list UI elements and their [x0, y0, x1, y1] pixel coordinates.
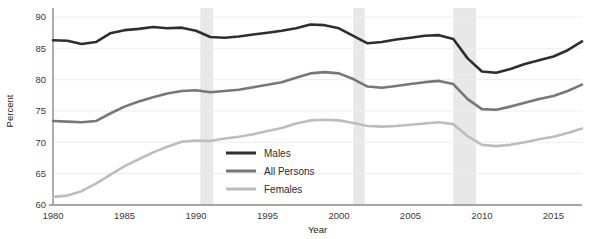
x-tick-label: 1980: [42, 210, 63, 221]
legend-label: Females: [264, 184, 302, 195]
y-tick-label: 75: [35, 105, 46, 116]
series-line-females: [53, 120, 582, 197]
recession-band: [453, 8, 476, 205]
y-tick-label: 80: [35, 74, 46, 85]
y-axis-label: Percent: [4, 94, 15, 127]
x-tick-label: 2015: [543, 210, 564, 221]
chart-canvas: 60657075808590 1980198519901995200020052…: [0, 0, 596, 239]
recession-bands: [200, 8, 476, 205]
y-tick-label: 85: [35, 43, 46, 54]
x-tick-label: 1990: [185, 210, 206, 221]
legend-label: Males: [264, 148, 291, 159]
x-tick-label: 1995: [257, 210, 278, 221]
line-chart: 60657075808590 1980198519901995200020052…: [0, 0, 596, 239]
x-axis-label: Year: [308, 224, 327, 235]
y-tick-label: 60: [35, 199, 46, 210]
gridlines: [53, 17, 582, 174]
x-tick-label: 2010: [471, 210, 492, 221]
x-tick-label: 1985: [114, 210, 135, 221]
x-axis-ticks: 19801985199019952000200520102015: [42, 210, 564, 221]
y-tick-label: 70: [35, 137, 46, 148]
y-tick-label: 90: [35, 11, 46, 22]
x-tick-label: 2000: [328, 210, 349, 221]
y-axis-ticks: 60657075808590: [35, 11, 46, 210]
y-tick-label: 65: [35, 168, 46, 179]
chart-legend: MalesAll PersonsFemales: [226, 148, 315, 195]
legend-label: All Persons: [264, 166, 315, 177]
x-tick-label: 2005: [400, 210, 421, 221]
axes: [49, 8, 582, 205]
